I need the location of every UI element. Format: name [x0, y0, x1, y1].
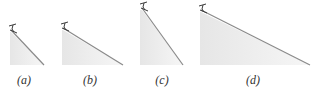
panel-label-c: (c) [155, 73, 168, 88]
slope-panel-a [9, 24, 44, 65]
slope-panel-b [61, 22, 123, 65]
skier-icon [140, 2, 148, 11]
panel-label-a: (a) [17, 73, 31, 88]
panel-label-d: (d) [246, 73, 260, 88]
slope-panel-c [140, 2, 183, 65]
skier-icon [9, 24, 17, 33]
panel-label-b: (b) [83, 73, 97, 88]
slope-panel-d [199, 4, 310, 65]
skier-icon [199, 4, 207, 13]
skier-icon [61, 22, 69, 31]
